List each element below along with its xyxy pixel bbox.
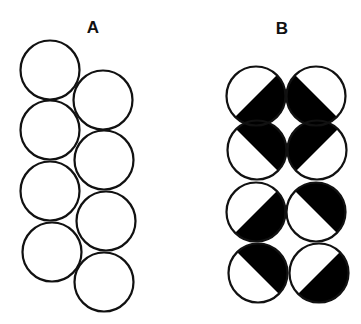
panel-a: A bbox=[21, 18, 136, 312]
open-circle bbox=[75, 253, 134, 312]
open-circle bbox=[77, 192, 136, 251]
open-circle bbox=[21, 101, 80, 160]
open-circle bbox=[74, 71, 133, 130]
open-circle bbox=[23, 223, 82, 282]
figure-canvas: A B bbox=[0, 0, 361, 324]
panel-b: B bbox=[223, 19, 353, 307]
half-filled-circle bbox=[223, 179, 290, 246]
half-filled-circle bbox=[286, 240, 353, 307]
open-circle bbox=[21, 162, 80, 221]
half-filled-circle bbox=[283, 179, 350, 246]
panel-b-circles bbox=[223, 63, 353, 307]
panel-b-label: B bbox=[276, 19, 288, 38]
panel-a-circles bbox=[21, 41, 136, 312]
open-circle bbox=[75, 131, 134, 190]
half-filled-circle bbox=[225, 240, 292, 307]
open-circle bbox=[21, 41, 80, 100]
panel-a-label: A bbox=[87, 18, 99, 37]
